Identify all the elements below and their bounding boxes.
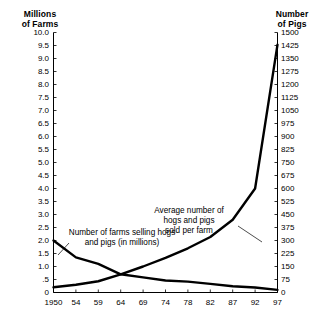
axis-lines <box>54 33 278 293</box>
plot-area <box>0 0 319 318</box>
tick-marks <box>54 33 278 293</box>
series-lines <box>54 45 278 290</box>
annotation-number-of-farms: Number of farms selling hogs and pigs (i… <box>52 228 192 248</box>
chart-container: Millions of Farms Number of Pigs 10.09.5… <box>0 0 319 318</box>
